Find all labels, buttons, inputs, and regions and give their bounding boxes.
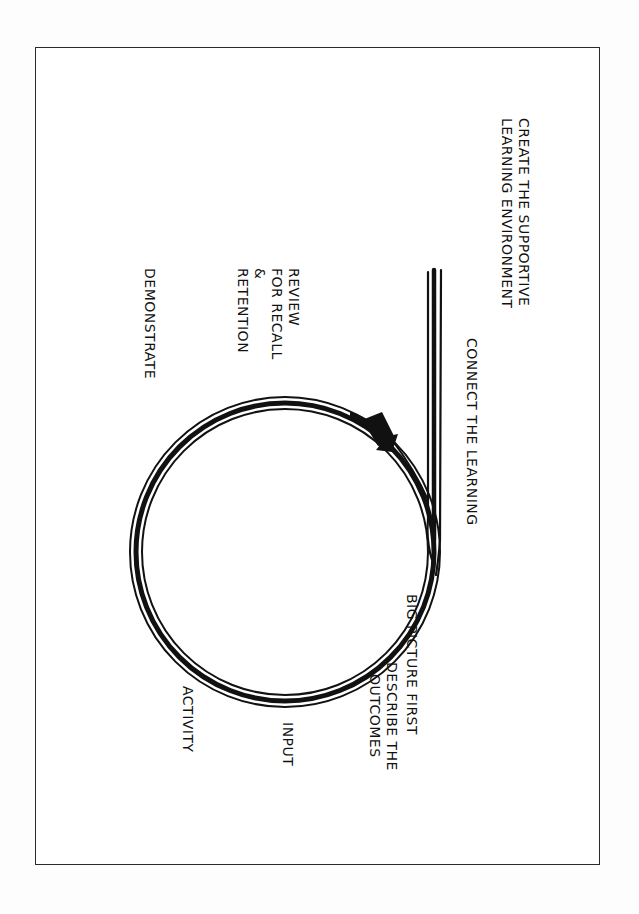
label-review-line3: &: [251, 268, 268, 360]
arrow-icon: [350, 412, 398, 452]
accelerated-learning-cycle-diagram: [0, 0, 639, 914]
label-big-picture-first: BIG PICTURE FIRST: [403, 594, 420, 735]
label-review-line2: FOR RECALL: [268, 268, 285, 360]
label-create-environment-line2: LEARNING ENVIRONMENT: [498, 118, 515, 309]
label-connect-learning: CONNECT THE LEARNING: [463, 338, 480, 526]
label-describe-line2: OUTCOMES: [366, 662, 383, 771]
label-review-recall-retention: REVIEW FOR RECALL & RETENTION: [234, 268, 302, 360]
label-describe-line1: DESCRIBE THE: [383, 662, 400, 771]
label-describe-outcomes: DESCRIBE THE OUTCOMES: [366, 662, 400, 771]
label-create-environment-line1: CREATE THE SUPPORTIVE: [515, 118, 532, 309]
label-review-line1: REVIEW: [285, 268, 302, 360]
label-demonstrate: DEMONSTRATE: [141, 268, 158, 379]
label-activity: ACTIVITY: [179, 686, 196, 753]
label-input: INPUT: [279, 722, 296, 766]
page: CREATE THE SUPPORTIVE LEARNING ENVIRONME…: [0, 0, 639, 914]
label-review-line4: RETENTION: [234, 268, 251, 360]
label-create-environment: CREATE THE SUPPORTIVE LEARNING ENVIRONME…: [498, 118, 532, 309]
